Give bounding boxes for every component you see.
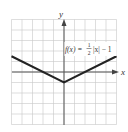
function-label: f(x) = 1 2 |x| − 1 xyxy=(65,42,117,56)
x-axis-label: x xyxy=(120,67,125,77)
fraction-numerator: 1 xyxy=(88,42,91,48)
fraction-denominator: 2 xyxy=(88,50,91,56)
function-label-prefix: f(x) = xyxy=(65,45,82,54)
x-axis-arrow-icon xyxy=(112,70,119,75)
y-axis-arrow-icon xyxy=(62,19,67,26)
x-axis xyxy=(12,70,119,75)
function-label-suffix: |x| − 1 xyxy=(93,45,112,54)
y-axis-label: y xyxy=(58,9,63,19)
function-graph: x y f(x) = 1 2 |x| − 1 xyxy=(0,0,128,132)
